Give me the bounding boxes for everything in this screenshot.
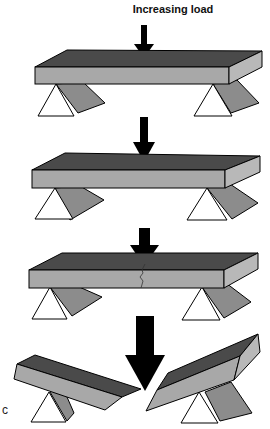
stage-3-cracking-beam (29, 228, 258, 320)
beam (29, 253, 258, 288)
support-left (32, 286, 102, 319)
figure-title: Increasing load (133, 3, 214, 15)
beam-left-fragment (14, 355, 141, 410)
support-left (35, 186, 104, 220)
stage-1-unloaded-beam (35, 25, 262, 116)
support-right (187, 184, 258, 220)
beam (35, 50, 262, 84)
support-right (194, 80, 259, 116)
load-arrow-largest (125, 316, 165, 391)
stage-2-loaded-beam (32, 117, 260, 220)
support-left (38, 82, 105, 116)
stage-4-fractured-beam (14, 316, 260, 423)
support-right (182, 283, 251, 320)
panel-label: c (2, 403, 8, 417)
three-point-bending-diagram: Increasing load (0, 0, 270, 429)
beam (32, 153, 260, 188)
